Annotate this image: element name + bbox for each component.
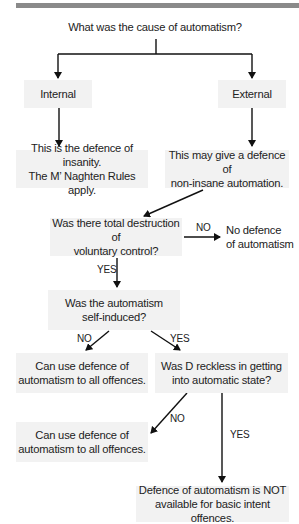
node-can-use-2-line1: Can use defence of [35,428,128,442]
node-reckless-line1: Was D reckless in getting [161,359,282,373]
label-no-destruction: NO [196,222,211,233]
node-no-defence: No defence of automatism [226,223,299,251]
node-insanity-line1: This is the defence of insanity. [16,141,148,169]
node-non-insane-line1: This may give a defence of [165,148,289,176]
node-can-use-1-line2: automatism to all offences. [18,373,145,387]
node-can-use-1: Can use defence of automatism to all off… [16,353,148,393]
node-insanity: This is the defence of insanity. The M’ … [16,150,148,188]
node-not-available-line2: available for basic intent offences. [136,497,289,524]
label-yes-destruction: YES [97,264,116,275]
node-internal-label: Internal [40,87,76,101]
node-no-defence-line1: No defence [226,223,299,237]
label-yes-self-induced: YES [170,333,189,344]
node-total-destruction-line1: Was there total destruction of [50,216,182,244]
node-external: External [218,80,286,108]
node-not-available-line1: Defence of automatism is NOT [139,483,286,497]
node-reckless: Was D reckless in getting into automatic… [155,353,288,393]
node-internal: Internal [24,80,92,108]
question-cause-title: What was the cause of automatism? [0,20,299,34]
node-no-defence-line2: of automatism [226,237,299,251]
node-non-insane: This may give a defence of non-insane au… [165,150,289,188]
label-no-self-induced: NO [77,333,92,344]
label-no-reckless: NO [170,413,185,424]
node-self-induced: Was the automatism self-induced? [48,290,180,330]
node-can-use-2: Can use defence of automatism to all off… [16,422,148,462]
node-reckless-line2: into automatic state? [172,373,271,387]
node-self-induced-line2: self-induced? [82,310,146,324]
node-can-use-2-line2: automatism to all offences. [18,442,145,456]
node-total-destruction-line2: voluntary control? [74,244,159,258]
node-self-induced-line1: Was the automatism [65,296,163,310]
node-can-use-1-line1: Can use defence of [35,359,128,373]
node-insanity-line2: The M’ Naghten Rules apply. [16,169,148,197]
node-external-label: External [232,87,271,101]
node-not-available: Defence of automatism is NOT available f… [136,486,289,522]
node-total-destruction: Was there total destruction of voluntary… [50,218,182,256]
label-yes-reckless: YES [230,429,249,440]
node-non-insane-line2: non-insane automation. [171,176,284,190]
